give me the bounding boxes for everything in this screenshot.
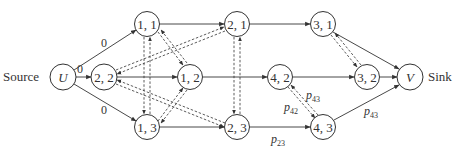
node-2-2-label: 2, 2	[94, 70, 114, 85]
edge-31-32-dashed	[331, 35, 357, 67]
node-3-1-label: 3, 1	[313, 17, 333, 32]
edge-21-22-dashed	[117, 31, 225, 74]
nodes: U 2, 2 1, 1 1, 3 1, 2 2, 1 2, 3 4, 2	[50, 12, 423, 140]
edge-23-22-dashed	[117, 80, 225, 123]
edge-label-p23: p23	[270, 132, 285, 148]
edge-label-p43-dashed: p43	[305, 88, 320, 104]
node-1-2-label: 1, 2	[180, 70, 200, 85]
edge-label-u-13: 0	[101, 103, 107, 117]
node-1-1: 1, 1	[135, 12, 160, 37]
node-1-2: 1, 2	[178, 65, 203, 90]
edge-22-21-dashed	[116, 27, 224, 70]
edge-11-12-dashed	[158, 32, 183, 65]
edge-label-p42: p42	[283, 100, 298, 116]
node-3-2-label: 3, 2	[357, 70, 377, 85]
edge-32-31-dashed	[335, 33, 361, 65]
edge-22-23-dashed	[116, 84, 224, 127]
node-1-3: 1, 3	[135, 115, 160, 140]
node-2-1: 2, 1	[225, 12, 250, 37]
node-4-3-label: 4, 3	[313, 120, 333, 135]
node-3-1: 3, 1	[311, 12, 336, 37]
node-u-label: U	[58, 70, 69, 85]
edge-31-v	[333, 32, 399, 69]
node-u: U	[50, 64, 76, 90]
network-flow-diagram: U 2, 2 1, 1 1, 3 1, 2 2, 1 2, 3 4, 2	[0, 0, 461, 151]
node-2-3: 2, 3	[225, 115, 250, 140]
node-2-3-label: 2, 3	[227, 120, 247, 135]
node-2-1-label: 2, 1	[227, 17, 247, 32]
node-v: V	[397, 64, 423, 90]
solid-edges	[74, 24, 399, 127]
node-1-1-label: 1, 1	[137, 17, 157, 32]
source-label: Source	[3, 69, 39, 84]
edge-label-p43-solid: p43	[363, 104, 378, 120]
sink-label: Sink	[428, 69, 452, 84]
node-2-2: 2, 2	[91, 64, 117, 90]
node-4-3: 4, 3	[311, 115, 336, 140]
node-1-3-label: 1, 3	[137, 120, 157, 135]
node-4-2-label: 4, 2	[270, 70, 290, 85]
edge-label-u-11: 0	[101, 36, 107, 50]
edge-label-u-22: 0	[77, 62, 83, 76]
node-4-2: 4, 2	[268, 65, 293, 90]
node-3-2: 3, 2	[355, 65, 380, 90]
